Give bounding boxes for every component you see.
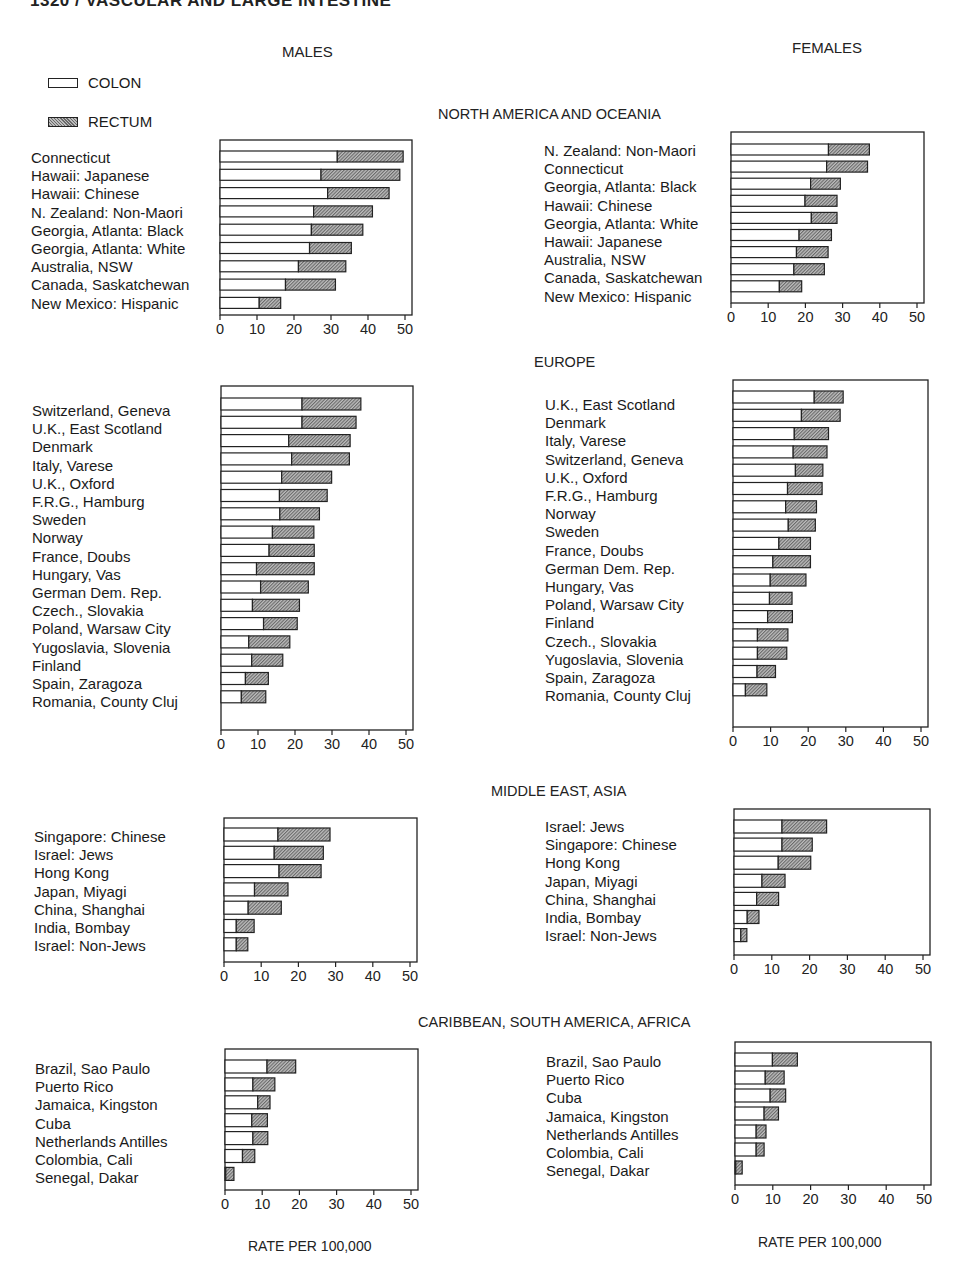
x-tick-label: 10 <box>250 736 266 752</box>
bar-row <box>733 428 829 440</box>
rectum-bar <box>259 297 280 308</box>
category-label: Puerto Rico <box>35 1078 168 1096</box>
x-tick-label: 30 <box>324 736 340 752</box>
x-tick-label: 30 <box>835 309 851 325</box>
bar-row <box>733 611 792 623</box>
category-label: Denmark <box>32 438 178 456</box>
x-tick-label: 20 <box>290 968 306 984</box>
category-label: Australia, NSW <box>31 258 189 276</box>
category-label: F.R.G., Hamburg <box>32 493 178 511</box>
bar-row <box>733 409 840 421</box>
bar-row <box>224 865 321 878</box>
colon-bar <box>221 654 252 666</box>
legend-item-rectum: RECTUM <box>48 113 152 130</box>
category-label: Jamaica, Kingston <box>35 1096 168 1114</box>
colon-bar <box>220 151 337 162</box>
bar-row <box>734 911 759 924</box>
colon-bar <box>734 838 782 851</box>
x-tick-label: 10 <box>763 733 779 749</box>
rectum-bar <box>801 409 840 421</box>
bar-chart-females-3: 01020304050 <box>727 380 944 757</box>
bar-row <box>733 464 823 476</box>
rectum-bar <box>747 911 759 924</box>
colon-bar <box>225 1078 253 1091</box>
rectum-bar <box>279 865 321 878</box>
colon-bar <box>221 471 282 483</box>
rectum-bar <box>310 243 352 254</box>
bar-row <box>221 416 356 428</box>
rectum-bar <box>795 464 822 476</box>
x-tick-label: 20 <box>800 733 816 749</box>
category-label: Italy, Varese <box>545 432 691 450</box>
bar-row <box>221 490 327 502</box>
colon-bar <box>735 1053 772 1066</box>
colon-bar <box>220 224 311 235</box>
legend-item-colon: COLON <box>48 74 141 91</box>
rectum-bar <box>279 490 327 502</box>
rectum-bar <box>782 820 827 833</box>
colon-bar <box>225 1114 252 1127</box>
category-label: Hong Kong <box>545 854 677 872</box>
colon-bar <box>735 1089 770 1102</box>
bar-row <box>221 563 314 575</box>
bar-chart-males-6: 01020304050 <box>219 1049 434 1220</box>
colon-bar <box>731 264 794 275</box>
category-label: Hawaii: Japanese <box>31 167 189 185</box>
bar-row <box>731 161 868 172</box>
rectum-bar <box>768 611 793 623</box>
bar-row <box>734 929 747 942</box>
colon-bar <box>221 398 302 410</box>
x-tick-label: 20 <box>286 321 302 337</box>
rectum-bar <box>770 1089 785 1102</box>
rectum-bar <box>764 1107 778 1120</box>
rectum-bar <box>757 666 775 678</box>
category-label: Switzerland, Geneva <box>32 402 178 420</box>
bar-row <box>733 647 787 659</box>
bar-row <box>221 398 361 410</box>
colon-bar <box>220 297 259 308</box>
colon-bar <box>224 883 255 896</box>
rectum-bar <box>799 230 831 241</box>
bar-chart-females-1: 01020304050 <box>725 132 940 333</box>
category-label: Sweden <box>545 523 691 541</box>
bar-row <box>735 1071 784 1084</box>
rectum-bar <box>267 1060 296 1073</box>
rectum-bar <box>756 1125 766 1138</box>
category-label: Israel: Jews <box>34 846 166 864</box>
x-tick-label: 20 <box>797 309 813 325</box>
bar-row <box>731 144 869 155</box>
category-labels-males-6: Brazil, Sao PauloPuerto RicoJamaica, Kin… <box>35 1060 168 1187</box>
colon-bar <box>221 636 249 648</box>
rectum-bar <box>814 391 843 403</box>
rectum-bar <box>328 188 389 199</box>
x-tick-label: 10 <box>249 321 265 337</box>
bar-row <box>221 618 297 630</box>
bar-row <box>221 508 319 520</box>
rectum-bar <box>280 508 320 520</box>
section-title-middle-east-asia: MIDDLE EAST, ASIA <box>491 783 626 799</box>
bar-row <box>225 1167 234 1180</box>
x-tick-label: 50 <box>913 733 929 749</box>
colon-bar <box>224 938 236 951</box>
category-labels-females-1: N. Zealand: Non-MaoriConnecticutGeorgia,… <box>544 142 702 306</box>
category-label: Switzerland, Geneva <box>545 451 691 469</box>
category-label: Canada, Saskatchewan <box>31 276 189 294</box>
x-tick-label: 10 <box>764 961 780 977</box>
x-tick-label: 0 <box>731 1191 739 1207</box>
bar-row <box>733 483 822 495</box>
category-label: Jamaica, Kingston <box>546 1108 679 1126</box>
bar-row <box>221 636 290 648</box>
category-label: Puerto Rico <box>546 1071 679 1089</box>
bar-row <box>734 892 779 905</box>
rectum-bar <box>269 544 314 556</box>
colon-bar <box>224 846 274 859</box>
colon-bar <box>221 581 261 593</box>
rectum-bar <box>805 195 837 206</box>
bar-row <box>733 501 816 513</box>
colon-bar <box>225 1096 258 1109</box>
colon-bar <box>220 279 285 290</box>
rectum-bar <box>779 281 801 292</box>
rectum-bar <box>272 526 313 538</box>
category-label: Georgia, Atlanta: White <box>31 240 189 258</box>
rectum-bar <box>252 599 299 611</box>
